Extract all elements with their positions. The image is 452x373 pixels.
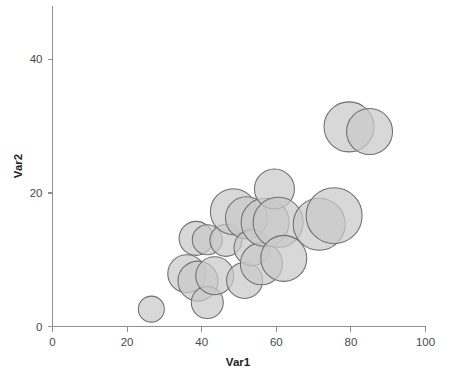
bubble-chart-figure: 020406080100 02040 Var1 Var2 <box>0 0 452 373</box>
x-tick-label: 0 <box>49 336 55 348</box>
x-tick-label: 20 <box>121 336 134 348</box>
y-tick-label: 0 <box>36 321 42 333</box>
bubble-point <box>306 188 362 244</box>
y-tick-label: 20 <box>30 187 43 199</box>
x-tick-label: 80 <box>345 336 358 348</box>
chart-background <box>0 0 452 373</box>
plot-area: 020406080100 02040 Var1 Var2 <box>0 0 452 373</box>
bubble-point <box>347 109 393 155</box>
bubble-point <box>138 296 164 322</box>
x-tick-label: 40 <box>195 336 208 348</box>
y-axis-title: Var2 <box>12 154 24 178</box>
y-tick-label: 40 <box>30 53 43 65</box>
x-tick-label: 100 <box>416 336 435 348</box>
x-axis-title: Var1 <box>226 356 251 368</box>
x-tick-label: 60 <box>270 336 283 348</box>
